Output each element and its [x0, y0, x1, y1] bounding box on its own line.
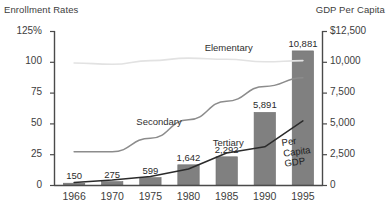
bar — [102, 182, 123, 185]
right-ytick-label: 5,000 — [330, 117, 378, 128]
bar — [178, 165, 199, 185]
bar-value-label: 599 — [126, 165, 174, 176]
left-ytick-label: 25 — [2, 148, 42, 159]
plot-bars — [63, 51, 313, 185]
right-ytick-label: 7,500 — [330, 86, 378, 97]
xtick-label: 1995 — [281, 190, 325, 202]
right-ytick-label: 2,500 — [330, 148, 378, 159]
line-elementary — [74, 58, 303, 64]
right-ytick-label: 0 — [330, 179, 378, 190]
series-label-elementary: Elementary — [205, 42, 253, 53]
right-ytick-label: $12,500 — [330, 25, 378, 36]
left-ytick-label: 50 — [2, 117, 42, 128]
series-label-secondary: Secondary — [136, 116, 181, 127]
enrollment-gdp-chart: Enrollment Rates GDP Per Capita 125%1007… — [0, 0, 389, 216]
left-ytick-label: 100 — [2, 55, 42, 66]
left-ytick-label: 0 — [2, 179, 42, 190]
bar — [216, 157, 237, 185]
bar — [63, 183, 84, 185]
bar-value-label: 10,881 — [279, 38, 327, 49]
series-label-tertiary: Tertiary — [213, 137, 244, 148]
series-label-per-capita-gdp: PerCapitaGDP — [281, 134, 313, 169]
bar — [140, 178, 161, 185]
bar-value-label: 5,891 — [241, 99, 289, 110]
left-ytick-label: 125% — [2, 25, 42, 36]
right-ytick-label: 10,000 — [330, 55, 378, 66]
left-ytick-label: 75 — [2, 86, 42, 97]
